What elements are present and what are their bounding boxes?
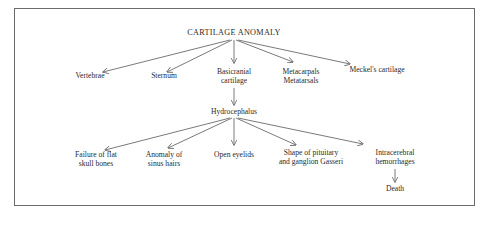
node-line: and ganglion Gasseri [279,157,343,166]
node-line: Metacarpals [282,67,319,76]
node-sternum: Sternum [151,71,177,80]
node-line: Sternum [151,71,177,80]
node-line: Open eyelids [214,150,254,159]
node-death: Death [386,184,404,193]
arrow-to-flat-skull [105,118,230,150]
node-line: hemorrhages [375,157,414,166]
node-line: sinus hairs [146,159,183,168]
node-anomaly-sinus-hairs: Anomaly of sinus hairs [146,150,183,168]
node-line: Meckel's cartilage [349,65,404,74]
arrow-to-vertebrae [103,40,230,72]
arrow-to-metacarpals [236,40,293,62]
arrow-to-sinus-hairs [168,118,232,148]
arrow-to-meckels [238,40,350,64]
node-failure-flat-skull: Failure of flat skull bones [75,150,117,168]
node-metacarpals-metatarsals: Metacarpals Metatarsals [282,67,319,85]
node-line: Anomaly of [146,150,183,159]
node-vertebrae: Vertebrae [75,71,104,80]
root-node: CARTILAGE ANOMALY [187,28,281,37]
node-pituitary-ganglion: Shape of pituitary and ganglion Gasseri [279,148,343,166]
node-open-eyelids: Open eyelids [214,150,254,159]
node-meckels-cartilage: Meckel's cartilage [349,65,404,74]
node-line: Basicranial [217,67,251,76]
node-line: Metatarsals [282,76,319,85]
node-line: Shape of pituitary [279,148,343,157]
node-basicranial-cartilage: Basicranial cartilage [217,67,251,85]
arrow-to-intracerebral [238,118,363,144]
node-line: cartilage [217,76,251,85]
node-line: Intracerebral [375,148,414,157]
arrow-to-pituitary [236,118,296,145]
node-hydrocephalus: Hydrocephalus [211,107,257,116]
node-intracerebral-hemorrhages: Intracerebral hemorrhages [375,148,414,166]
node-line: Failure of flat [75,150,117,159]
node-line: skull bones [75,159,117,168]
node-line: Vertebrae [75,71,104,80]
